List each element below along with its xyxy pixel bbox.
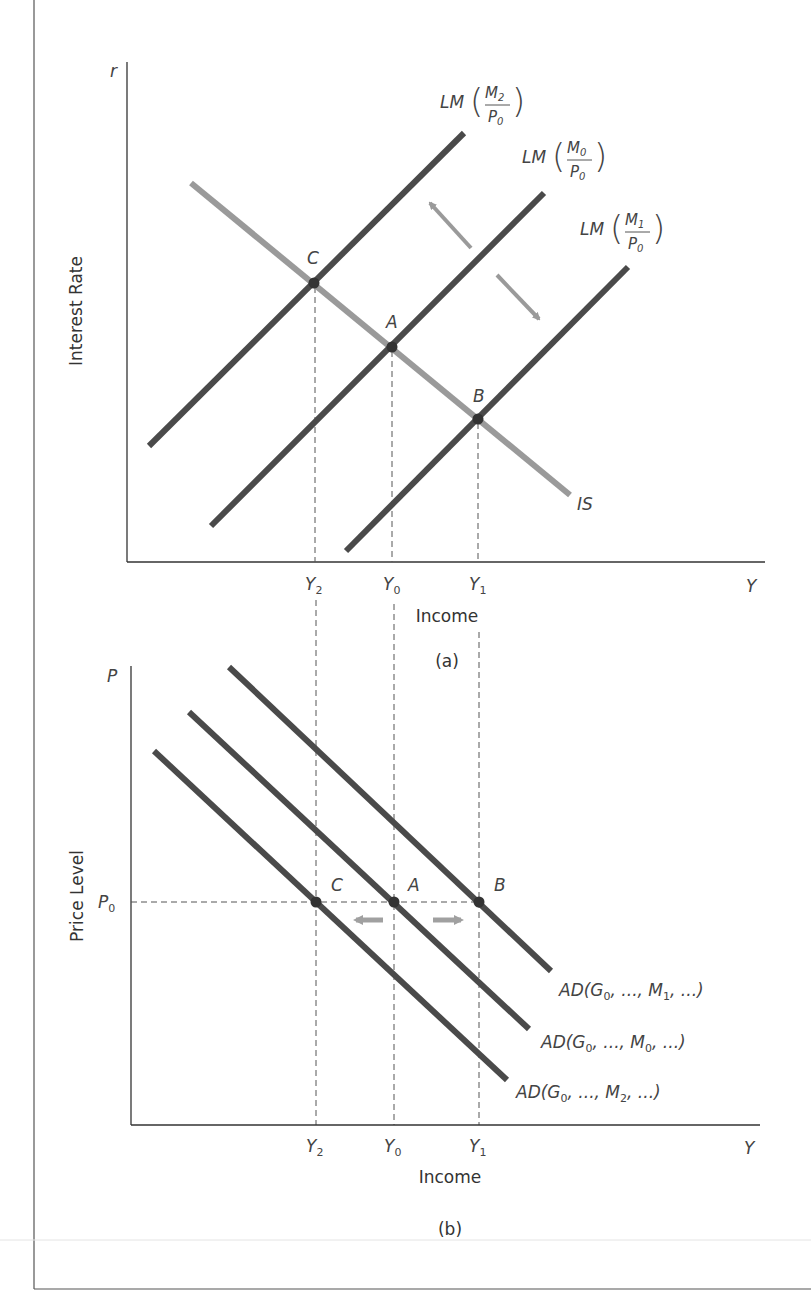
point-b-b: [474, 897, 485, 908]
lm0-paren-left: (: [552, 136, 565, 176]
lm2-paren-left: (: [470, 81, 483, 121]
is-curve: [191, 183, 570, 495]
tick-y2-b: Y2: [306, 1136, 323, 1159]
is-label: IS: [577, 494, 593, 514]
point-b-a: [473, 414, 484, 425]
lm-shift-right-arrow: [497, 275, 539, 319]
panel-a-y-label: Interest Rate: [66, 256, 86, 366]
lm1-den: P0: [628, 235, 643, 254]
tick-y0-a: Y0: [383, 574, 400, 597]
panel-b-x-label: Income: [419, 1167, 482, 1187]
point-c-label-a: C: [307, 248, 319, 268]
tick-y2-a: Y2: [305, 574, 322, 597]
ad2-curve: [154, 751, 507, 1080]
tick-y1-a: Y1: [469, 574, 486, 597]
p0-label: P0: [98, 892, 115, 915]
point-a-label-a: A: [385, 312, 398, 332]
point-b-label-a: B: [473, 386, 485, 406]
lm2-num: M2: [485, 84, 504, 103]
lm2-den: P0: [488, 108, 503, 127]
panel-b: P Y Price Level P0 AD(G0, ..., M1, ...) …: [67, 666, 760, 1239]
lm0-num: M0: [567, 139, 586, 158]
point-b-label-b: B: [494, 875, 506, 895]
point-a-label-b: A: [407, 875, 420, 895]
is-lm-ad-figure: r Y Interest Rate IS LM ( M2 P0 ) LM ( M…: [0, 0, 811, 1309]
ad0-curve: [189, 712, 529, 1029]
tick-y1-b: Y1: [469, 1136, 486, 1159]
panel-b-y-label: Price Level: [67, 850, 87, 942]
point-c-label-b: C: [331, 875, 343, 895]
panel-b-x-symbol: Y: [744, 1138, 756, 1158]
ad2-label: AD(G0, ..., M2, ...): [515, 1082, 661, 1105]
panel-a-caption: (a): [435, 651, 459, 671]
lm1-label: LM ( M1 P0 ): [580, 208, 665, 254]
ad1-curve: [229, 667, 551, 971]
lm2-paren-right: ): [512, 81, 525, 121]
lm0-paren-right: ): [594, 136, 607, 176]
ad1-label: AD(G0, ..., M1, ...): [558, 980, 704, 1003]
panel-a: r Y Interest Rate IS LM ( M2 P0 ) LM ( M…: [66, 61, 765, 671]
lm0-label-main: LM: [522, 147, 546, 167]
point-c-b: [311, 897, 322, 908]
panel-b-y-symbol: P: [107, 666, 118, 686]
panel-a-x-label: Income: [416, 606, 479, 626]
panel-b-caption: (b): [438, 1219, 462, 1239]
lm1-num: M1: [625, 211, 644, 230]
lm0-den: P0: [570, 163, 585, 182]
ad0-label: AD(G0, ..., M0, ...): [540, 1032, 686, 1055]
point-a-b: [389, 897, 400, 908]
lm2-label-main: LM: [440, 92, 464, 112]
lm1-paren-right: ): [652, 208, 665, 248]
tick-y0-b: Y0: [384, 1136, 401, 1159]
panel-a-x-symbol: Y: [746, 576, 758, 596]
panel-a-y-symbol: r: [110, 61, 118, 81]
lm1-label-main: LM: [580, 219, 604, 239]
lm-shift-left-arrow: [430, 203, 471, 248]
lm0-label: LM ( M0 P0 ): [522, 136, 607, 182]
point-a-a: [387, 342, 398, 353]
lm2-label: LM ( M2 P0 ): [440, 81, 525, 127]
lm2-curve: [149, 133, 464, 446]
point-c-a: [309, 278, 320, 289]
lm1-paren-left: (: [610, 208, 623, 248]
